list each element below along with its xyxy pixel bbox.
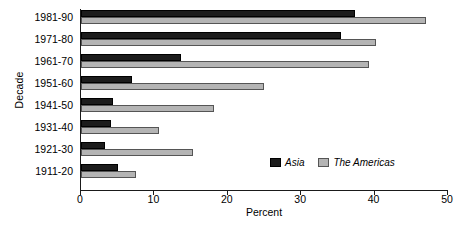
x-axis-tick-label: 20 — [221, 193, 233, 205]
bar-asia — [81, 142, 105, 149]
legend-label: The Americas — [333, 157, 394, 168]
y-axis-tick-label: 1981-90 — [34, 9, 73, 25]
bar-asia — [81, 54, 181, 61]
y-axis-tick-label: 1961-70 — [34, 53, 73, 69]
x-axis-tick-label: 10 — [148, 193, 160, 205]
bar-asia — [81, 10, 355, 17]
bar-group: 1921-30 — [80, 142, 447, 157]
bar-asia — [81, 98, 113, 105]
legend-item-asia: Asia — [270, 157, 304, 168]
bar-chart: Decade 1981-901971-801961-701951-601941-… — [0, 0, 472, 226]
x-axis-tick-label: 40 — [368, 193, 380, 205]
x-axis-tick-label: 30 — [294, 193, 306, 205]
bar-asia — [81, 164, 118, 171]
x-axis-tick-label: 0 — [77, 193, 83, 205]
legend-swatch-icon — [318, 158, 329, 167]
bar-americas — [81, 105, 214, 112]
x-axis-title: Percent — [80, 206, 448, 218]
chart-legend: AsiaThe Americas — [270, 157, 404, 168]
y-axis-title: Decade — [13, 55, 25, 125]
bar-group: 1951-60 — [80, 76, 447, 91]
legend-label: Asia — [285, 157, 304, 168]
bar-group: 1981-90 — [80, 10, 447, 25]
bar-americas — [81, 61, 369, 68]
bar-group: 1931-40 — [80, 120, 447, 135]
bar-americas — [81, 149, 193, 156]
y-axis-tick-label: 1931-40 — [34, 119, 73, 135]
y-axis-tick-label: 1941-50 — [34, 97, 73, 113]
bar-americas — [81, 171, 136, 178]
bar-americas — [81, 127, 159, 134]
bar-asia — [81, 120, 111, 127]
x-axis-line — [80, 190, 448, 191]
legend-swatch-icon — [270, 158, 281, 167]
bar-americas — [81, 17, 426, 24]
x-axis-tick-label: 50 — [441, 193, 453, 205]
legend-item-americas: The Americas — [318, 157, 394, 168]
bar-americas — [81, 39, 376, 46]
bar-americas — [81, 83, 264, 90]
bar-group: 1961-70 — [80, 54, 447, 69]
y-axis-tick-label: 1951-60 — [34, 75, 73, 91]
y-axis-tick-label: 1921-30 — [34, 141, 73, 157]
y-axis-tick-label: 1971-80 — [34, 31, 73, 47]
bar-asia — [81, 76, 132, 83]
y-axis-tick-label: 1911-20 — [35, 163, 73, 179]
bar-group: 1971-80 — [80, 32, 447, 47]
bar-group: 1941-50 — [80, 98, 447, 113]
bar-asia — [81, 32, 341, 39]
